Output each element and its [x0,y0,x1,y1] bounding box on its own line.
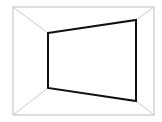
perspective-diagram [0,0,162,122]
inner-back-wall [48,20,136,101]
